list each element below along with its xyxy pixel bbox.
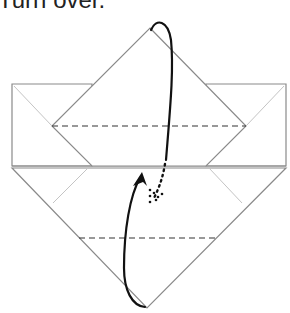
- upper-diamond-flap: [52, 28, 246, 166]
- origami-diagram: [0, 0, 290, 313]
